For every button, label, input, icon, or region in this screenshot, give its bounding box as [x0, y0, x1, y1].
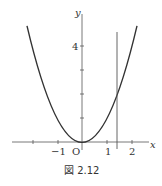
- x-axis-label: x: [150, 139, 156, 150]
- y-tick-label-4: 4: [72, 41, 78, 52]
- origin-label: O: [72, 146, 80, 157]
- parabola-figure: y x 4 −1 O 1 2 図 2.12: [0, 0, 162, 186]
- figure-caption: 図 2.12: [64, 165, 99, 176]
- y-axis-label: y: [74, 7, 81, 18]
- x-tick-label-neg1: −1: [51, 146, 66, 157]
- x-tick-label-2: 2: [129, 146, 135, 157]
- x-tick-label-1: 1: [105, 146, 111, 157]
